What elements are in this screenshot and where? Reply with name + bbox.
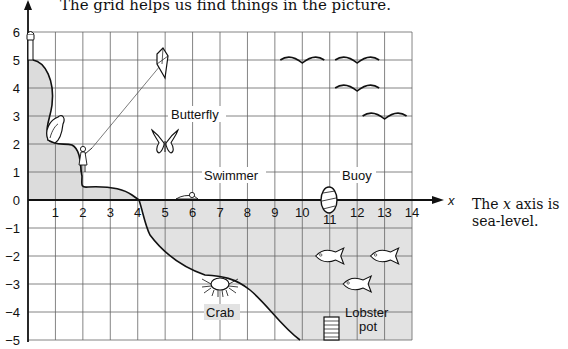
lobster-pot-icon — [324, 317, 339, 340]
y-tick-label: −4 — [5, 305, 20, 320]
y-tick-label: 1 — [13, 165, 20, 180]
lobster-label-line2: pot — [359, 319, 377, 334]
x-tick-label: 9 — [271, 205, 278, 220]
y-tick-label: 2 — [13, 137, 20, 152]
y-axis-arrow-icon — [24, 0, 32, 10]
y-tick-label: 0 — [13, 193, 20, 208]
x-tick-label: 5 — [162, 205, 169, 220]
x-tick-label: 4 — [134, 205, 141, 220]
y-tick-label: 3 — [13, 109, 20, 124]
coordinate-grid-diagram: x 12345678910111213146543210−1−2−3−4−5 — [0, 0, 568, 349]
swimmer-label: Swimmer — [204, 168, 259, 183]
crab-label: Crab — [206, 305, 234, 320]
x-axis-arrow-icon — [432, 196, 444, 204]
x-tick-label: 2 — [79, 205, 86, 220]
x-tick-label: 14 — [405, 205, 419, 220]
buoy-label: Buoy — [342, 168, 372, 183]
x-tick-label: 13 — [377, 205, 391, 220]
land-region — [28, 60, 139, 200]
y-tick-label: −5 — [5, 333, 20, 348]
y-tick-label: 5 — [13, 53, 20, 68]
y-tick-label: −3 — [5, 277, 20, 292]
x-tick-label: 6 — [189, 205, 196, 220]
kite-string — [92, 66, 160, 148]
girl-icon — [79, 146, 92, 172]
x-tick-label: 7 — [216, 205, 223, 220]
swimmer-icon — [176, 192, 198, 199]
x-tick-label: 12 — [350, 205, 364, 220]
kite-icon — [157, 48, 168, 78]
x-tick-label: 10 — [295, 205, 309, 220]
lobster-label-line1: Lobster — [345, 305, 389, 320]
y-tick-label: −2 — [5, 249, 20, 264]
x-tick-label: 8 — [244, 205, 251, 220]
x-tick-label: 11 — [323, 212, 337, 227]
buoy-icon — [321, 187, 337, 213]
y-tick-label: 4 — [13, 81, 20, 96]
y-tick-label: −1 — [5, 221, 20, 236]
butterfly-label: Butterfly — [171, 107, 219, 122]
x-tick-label: 3 — [107, 205, 114, 220]
x-axis-label: x — [447, 193, 455, 208]
y-tick-label: 6 — [13, 25, 20, 40]
x-tick-label: 1 — [52, 205, 59, 220]
lighthouse-icon — [27, 32, 34, 61]
